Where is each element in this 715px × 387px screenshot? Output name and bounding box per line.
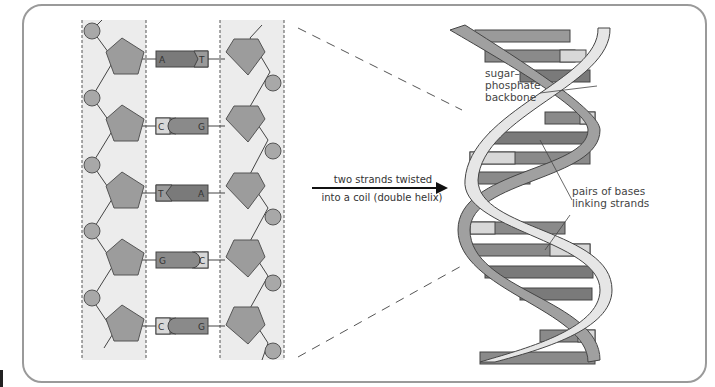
base-pair-5: C G [156, 318, 208, 334]
svg-text:C: C [158, 122, 164, 132]
svg-text:C: C [158, 322, 164, 332]
svg-text:T: T [157, 189, 164, 199]
svg-text:G: G [198, 322, 205, 332]
svg-text:A: A [198, 189, 205, 199]
arrow-label-bottom: into a coil (double helix) [312, 192, 452, 203]
base-pair-4: G C [156, 252, 208, 268]
svg-text:C: C [199, 256, 205, 266]
base-pair-3: T A [156, 185, 208, 201]
backbone-label: sugar– phosphate backbone [485, 67, 541, 103]
base-pair-1: A T [156, 51, 208, 67]
base-pair-2: C G [156, 118, 208, 134]
svg-text:A: A [159, 55, 166, 65]
svg-text:G: G [159, 256, 166, 266]
base-pairs-label: pairs of bases linking strands [572, 185, 649, 209]
arrow-label-top: two strands twisted [328, 174, 438, 185]
svg-text:G: G [198, 122, 205, 132]
svg-text:T: T [198, 55, 205, 65]
